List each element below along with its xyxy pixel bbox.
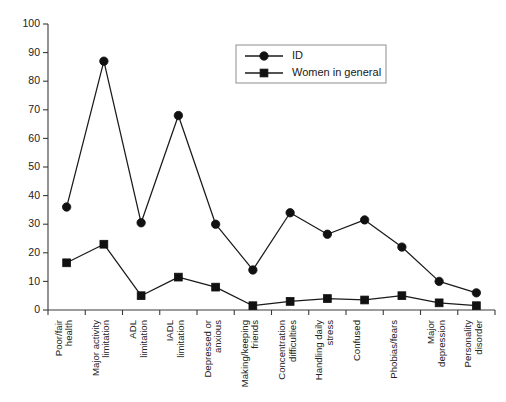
x-tick-label: IADL [164,319,175,341]
data-point-marker [62,203,70,211]
chart-container: 0102030405060708090100 Poor/fairhealthMa… [0,0,506,402]
data-point-marker [249,302,257,310]
x-tick-label: Major activity [90,320,101,376]
data-point-marker [360,216,368,224]
x-tick-label: Concentration [276,320,287,380]
data-point-marker [249,266,257,274]
y-tick-label: 40 [28,189,40,201]
data-point-marker [398,243,406,251]
y-tick-label: 90 [28,46,40,58]
x-tick-label: health [63,320,74,346]
x-tick-label: difficulties [287,320,298,362]
x-tick-label: stress [324,320,335,346]
data-point-marker [174,111,182,119]
x-tick-label-group: Confused [351,320,362,361]
legend-label: ID [292,49,303,61]
y-tick-label: 50 [28,160,40,172]
data-point-marker [100,240,108,248]
x-tick-label: friends [249,320,260,349]
data-point-marker [435,277,443,285]
x-tick-label: ADL [127,319,138,338]
x-tick-label: Confused [351,320,362,361]
line-chart: 0102030405060708090100 Poor/fairhealthMa… [0,0,506,402]
y-tick-label: 80 [28,74,40,86]
data-point-marker [286,209,294,217]
x-tick-label: Depressed or [202,319,213,377]
x-tick-label: limitation [175,320,186,358]
x-tick-label: Phobias/fears [388,320,399,379]
x-tick-label: Major [425,319,436,344]
y-tick-label: 100 [22,17,40,29]
data-point-marker [212,283,220,291]
data-point-marker [63,259,71,267]
data-point-marker [100,57,108,65]
chart-legend[interactable]: IDWomen in general [236,45,386,83]
x-tick-label: limitation [100,320,111,358]
x-tick-label-group: Phobias/fears [388,320,399,379]
data-point-marker [174,273,182,281]
legend-marker-circle-icon [260,52,268,60]
x-tick-label: depression [436,320,447,367]
legend-label: Women in general [292,66,381,78]
data-point-marker [286,298,294,306]
y-tick-label: 20 [28,246,40,258]
x-tick-label: Personality [462,320,473,368]
x-tick-label: Making/keeping [239,320,250,387]
y-tick-label: 70 [28,103,40,115]
data-point-marker [323,230,331,238]
y-tick-label: 30 [28,217,40,229]
data-point-marker [472,289,480,297]
x-tick-label: anxious [212,320,223,353]
x-tick-label: Poor/fair [53,319,64,356]
data-point-marker [137,219,145,227]
data-point-marker [211,220,219,228]
x-tick-label: Handling daily [313,320,324,380]
data-point-marker [323,295,331,303]
data-point-marker [472,302,480,310]
legend-marker-square-icon [260,69,268,77]
x-tick-label: disorder [473,319,484,354]
data-point-marker [398,292,406,300]
data-point-marker [361,296,369,304]
data-point-marker [435,299,443,307]
y-tick-label: 10 [28,275,40,287]
y-tick-label: 60 [28,132,40,144]
y-tick-label: 0 [34,303,40,315]
x-tick-label: limitation [138,320,149,358]
data-point-marker [137,292,145,300]
